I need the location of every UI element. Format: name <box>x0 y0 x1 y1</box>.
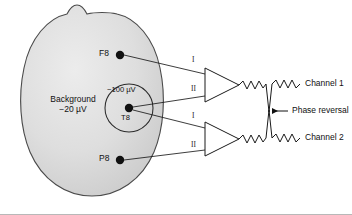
amplifier-triangle-1 <box>205 68 239 102</box>
electrode-dot-t8[interactable] <box>125 104 133 112</box>
electrode-label-p8: P8 <box>99 154 109 164</box>
electrode-dot-p8[interactable] <box>116 156 124 164</box>
channel-1-label: Channel 1 <box>305 79 344 89</box>
amplifier-2-input-1-label: I <box>192 112 194 120</box>
background-region-label-line2: −20 µV <box>34 105 112 115</box>
electrode-label-t8: T8 <box>121 114 130 123</box>
focus-amplitude-label: −100 µV <box>107 86 136 95</box>
amplifier-1-input-1-label: I <box>192 56 194 64</box>
channel-2-label: Channel 2 <box>305 133 344 143</box>
background-region-label: Background −20 µV <box>34 95 112 114</box>
amplifier-2-input-2-label: II <box>191 141 196 149</box>
phase-reversal-label: Phase reversal <box>292 106 349 116</box>
waveform-channel-2 <box>239 110 300 143</box>
amplifier-1-input-2-label: II <box>191 85 196 93</box>
amplifier-triangle-2 <box>205 122 239 156</box>
electrode-label-f8: F8 <box>99 49 109 59</box>
electrode-dot-f8[interactable] <box>116 51 124 59</box>
waveform-channel-1 <box>239 80 300 112</box>
figure-canvas: Background −20 µV −100 µV T8 F8 P8 I II … <box>0 0 352 215</box>
